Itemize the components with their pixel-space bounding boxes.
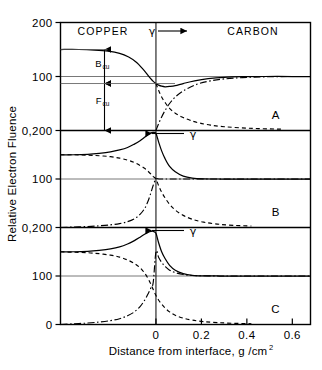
panel-label-C: C <box>271 303 279 315</box>
y-tick-label: 100 <box>32 71 52 83</box>
gamma-label-b: γ <box>190 128 197 141</box>
panel-label-A: A <box>272 109 280 121</box>
y-tick-label: 100 <box>32 270 52 282</box>
x-axis-title-text: Distance from interface, g /cm <box>109 345 268 357</box>
bcu-label-sub: cu <box>103 63 110 70</box>
y-tick-label: 100 <box>32 173 52 185</box>
y-axis-ticks: 2001000,2001000,2001000 <box>22 17 61 331</box>
gamma-label-a: γ <box>149 25 156 38</box>
series-a-1 <box>156 84 281 130</box>
series-b-2 <box>61 179 311 228</box>
y-tick-label: 200 <box>32 17 52 29</box>
x-tick-label: 0 <box>153 329 160 341</box>
x-axis-ticks: 00.20.40.6 <box>153 319 301 341</box>
panel-A: A <box>61 23 311 131</box>
region-label-carbon: CARBON <box>227 25 279 37</box>
y-axis-title-text: Relative Electron Fluence <box>6 106 18 242</box>
chart-canvas: ABC2001000,2001000,200100000.20.40.6Dist… <box>0 0 322 370</box>
x-tick-label: 0.2 <box>193 329 210 341</box>
chart-layer: ABC2001000,2001000,200100000.20.40.6Dist… <box>6 17 311 357</box>
y-tick-label: 0 <box>46 319 53 331</box>
y-tick-label: 0,200 <box>22 125 53 137</box>
panel-label-B: B <box>272 206 280 218</box>
panel-B: B <box>61 131 311 228</box>
annotations: COPPERCARBONγγγBcuFcu <box>61 25 279 238</box>
y-tick-label: 0,200 <box>22 222 53 234</box>
x-tick-label: 0.4 <box>238 329 255 341</box>
figure-container: ABC2001000,2001000,200100000.20.40.6Dist… <box>0 0 322 370</box>
x-tick-label: 0.6 <box>284 329 301 341</box>
gamma-label-c: γ <box>190 225 197 238</box>
bcu-label: B <box>95 58 101 69</box>
x-axis-title: Distance from interface, g /cm2 <box>109 343 274 357</box>
panel-C: C <box>61 228 311 325</box>
fcu-label: F <box>96 95 102 106</box>
fcu-label-sub: cu <box>103 100 110 107</box>
region-label-copper: COPPER <box>78 25 129 37</box>
x-axis-title-superscript: 2 <box>269 343 273 352</box>
